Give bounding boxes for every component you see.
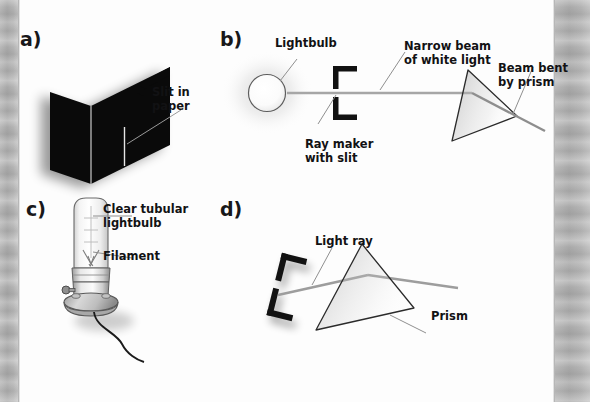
panel-letter-c: c) <box>26 198 46 220</box>
lightbulb-circle <box>249 75 286 112</box>
beam-bent-label: Beam bent by prism <box>498 62 568 89</box>
light-ray-leader-line <box>312 248 332 285</box>
figure-page: a) <box>0 0 590 402</box>
clear-tubular-lightbulb-label: Clear tubular lightbulb <box>103 203 188 230</box>
panel-letter-a: a) <box>20 28 42 50</box>
prism-label: Prism <box>431 310 468 324</box>
lightbulb-label: Lightbulb <box>275 37 337 51</box>
slit-in-paper-label: Slit in paper <box>152 86 190 113</box>
figure-canvas: a) <box>20 0 555 402</box>
panel-d-diagram <box>250 230 520 380</box>
prism-triangle-d <box>316 244 414 330</box>
light-ray-label: Light ray <box>315 235 373 249</box>
prism-leader-line <box>390 315 426 333</box>
panel-letter-d: d) <box>220 198 242 220</box>
paper-left-flange <box>50 92 91 184</box>
filament-label: Filament <box>103 250 160 264</box>
base-tab-left <box>72 294 80 299</box>
page-gutter-left <box>0 0 18 402</box>
thumb-screw-shaft <box>69 289 75 292</box>
narrow-beam-label: Narrow beam of white light <box>404 40 491 67</box>
base-tab-right <box>102 294 110 299</box>
narrow-beam-leader-line <box>380 52 405 90</box>
ray-maker-bracket-d <box>266 253 307 321</box>
ray-maker-label: Ray maker with slit <box>305 138 373 165</box>
